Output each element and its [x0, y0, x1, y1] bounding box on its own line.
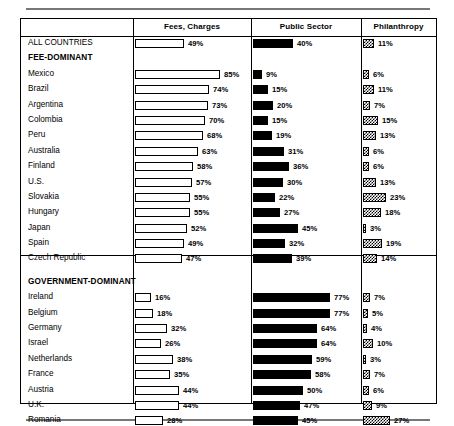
table-row: Japan52%45%3%: [21, 221, 436, 236]
bar-public: [253, 70, 262, 79]
cell-public: 15%: [251, 82, 361, 97]
bar-value-phil: 15%: [382, 116, 397, 125]
bar-value-phil: 9%: [376, 401, 387, 410]
bar-value-public: 9%: [266, 70, 277, 79]
cell-public: 45%: [251, 413, 361, 426]
cell-phil: 6%: [361, 144, 438, 159]
bar-phil: [363, 324, 367, 333]
bar-value-public: 39%: [296, 254, 311, 263]
bar-value-fees: 52%: [191, 224, 206, 233]
row-label-country: Slovakia: [28, 192, 59, 201]
bar-value-fees: 58%: [197, 162, 212, 171]
bar-fees: [135, 401, 179, 410]
cell-fees: 85%: [133, 67, 251, 82]
bar-public: [253, 208, 280, 217]
bar-value-public: 47%: [304, 401, 319, 410]
bar-value-phil: 3%: [370, 355, 381, 364]
cell-public: 39%: [251, 251, 361, 266]
cell-public: 36%: [251, 159, 361, 174]
bar-public: [253, 147, 284, 156]
bar-fees: [135, 416, 163, 425]
cell-phil: 13%: [361, 128, 438, 143]
bar-value-fees: 44%: [183, 401, 198, 410]
bar-value-phil: 6%: [373, 70, 384, 79]
bar-fees: [135, 224, 187, 233]
table-row: Ireland16%77%7%: [21, 290, 436, 305]
bar-fees: [135, 147, 198, 156]
row-label-country: Ireland: [28, 292, 53, 301]
cell-public: 32%: [251, 236, 361, 251]
cell-fees: 52%: [133, 221, 251, 236]
cell-public: 64%: [251, 321, 361, 336]
bar-value-phil: 19%: [386, 239, 401, 248]
cell-fees: 16%: [133, 290, 251, 305]
cell-public: 19%: [251, 128, 361, 143]
cell-public: 47%: [251, 398, 361, 413]
cell-phil: 7%: [361, 98, 438, 113]
row-label-country: U.S.: [28, 177, 44, 186]
table-row: Czech Republic47%39%14%: [21, 251, 436, 266]
bar-value-fees: 35%: [174, 370, 189, 379]
bar-value-public: 30%: [287, 178, 302, 187]
bar-phil: [363, 116, 378, 125]
cell-public: 9%: [251, 67, 361, 82]
bar-value-fees: 32%: [171, 324, 186, 333]
bar-value-public: 31%: [288, 147, 303, 156]
cell-public: 50%: [251, 383, 361, 398]
table-row: Mexico85%9%6%: [21, 67, 436, 82]
table-row: Finland58%36%6%: [21, 159, 436, 174]
bar-phil: [363, 162, 369, 171]
row-label-country: ALL COUNTRIES: [28, 38, 93, 47]
bar-value-public: 45%: [302, 224, 317, 233]
bar-phil: [363, 208, 381, 217]
bar-value-fees: 18%: [157, 309, 172, 318]
cell-public: 20%: [251, 98, 361, 113]
row-label-country: Belgium: [28, 308, 58, 317]
bar-public: [253, 193, 275, 202]
bar-phil: [363, 401, 372, 410]
group-label: FEE-DOMINANT: [28, 53, 93, 62]
cell-fees: 44%: [133, 383, 251, 398]
bar-value-phil: 10%: [377, 339, 392, 348]
bar-value-phil: 11%: [378, 39, 393, 48]
cell-phil: 14%: [361, 251, 438, 266]
bar-public: [253, 386, 303, 395]
cell-phil: 6%: [361, 159, 438, 174]
bar-value-public: 32%: [289, 239, 304, 248]
cell-phil: 27%: [361, 413, 438, 426]
bar-value-phil: 6%: [373, 147, 384, 156]
row-label-country: Finland: [28, 161, 55, 170]
bar-value-fees: 70%: [209, 116, 224, 125]
row-label-country: France: [28, 369, 53, 378]
bar-value-public: 45%: [302, 416, 317, 425]
bar-value-fees: 55%: [194, 208, 209, 217]
bar-value-public: 15%: [272, 116, 287, 125]
cell-phil: 4%: [361, 321, 438, 336]
bar-public: [253, 293, 330, 302]
bar-value-phil: 23%: [390, 193, 405, 202]
cell-phil: 5%: [361, 306, 438, 321]
cell-public: 64%: [251, 336, 361, 351]
table-row: Israel26%64%10%: [21, 336, 436, 351]
cell-phil: 18%: [361, 205, 438, 220]
bar-value-public: 59%: [316, 355, 331, 364]
bar-fees: [135, 116, 205, 125]
bar-fees: [135, 355, 173, 364]
row-label-country: Austria: [28, 385, 53, 394]
table-row: Spain49%32%19%: [21, 236, 436, 251]
bar-value-phil: 27%: [394, 416, 409, 425]
row-label-country: Peru: [28, 130, 45, 139]
cell-phil: 15%: [361, 113, 438, 128]
bar-public: [253, 101, 273, 110]
cell-public: 58%: [251, 367, 361, 382]
cell-fees: 70%: [133, 113, 251, 128]
cell-fees: 38%: [133, 352, 251, 367]
cell-fees: 55%: [133, 190, 251, 205]
bar-value-public: 64%: [321, 324, 336, 333]
bar-value-phil: 6%: [373, 386, 384, 395]
table-row: Slovakia55%22%23%: [21, 190, 436, 205]
table-row: Austria44%50%6%: [21, 383, 436, 398]
table-row: Germany32%64%4%: [21, 321, 436, 336]
bar-public: [253, 339, 317, 348]
bar-value-public: 20%: [277, 101, 292, 110]
